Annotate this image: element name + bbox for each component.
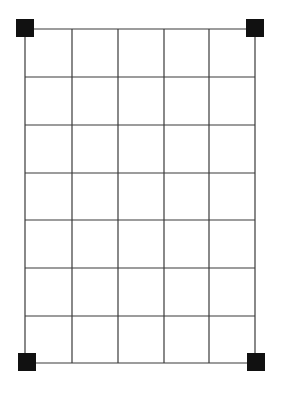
corner-marker-bottom-left (18, 353, 36, 371)
corner-markers (16, 19, 265, 371)
corner-marker-top-right (246, 19, 264, 37)
grid-diagram (0, 0, 283, 396)
corner-marker-bottom-right (247, 353, 265, 371)
grid-lines (25, 29, 255, 363)
corner-marker-top-left (16, 19, 34, 37)
